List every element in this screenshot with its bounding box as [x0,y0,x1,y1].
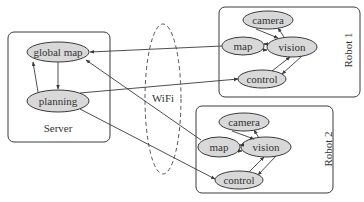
robot2-map-label: map [210,141,229,153]
robot2-label: Robot 2 [322,131,334,166]
robot2-camera-label: camera [228,116,260,128]
global-map-label: global map [33,46,83,58]
robot1-map-label: map [234,40,253,52]
robot1-control-label: control [246,73,277,85]
edge-planning-to-robot2-control [80,109,215,179]
robot2-control-label: control [223,174,254,186]
robot2-group: camera map vision control Robot 2 [196,106,334,193]
robot1-vision-label: vision [279,41,306,53]
robot1-group: camera map vision control Robot 1 [219,7,360,97]
wifi-group: WiFi [145,24,181,174]
robot1-camera-label: camera [252,14,284,26]
robot2-vision-label: vision [253,141,280,153]
wifi-label: WiFi [152,92,174,104]
architecture-diagram: global map planning Server WiFi camera m… [0,0,364,202]
server-label: Server [44,122,73,134]
robot1-label: Robot 1 [342,32,354,67]
server-group: global map planning Server [8,32,110,142]
planning-label: planning [39,95,78,107]
